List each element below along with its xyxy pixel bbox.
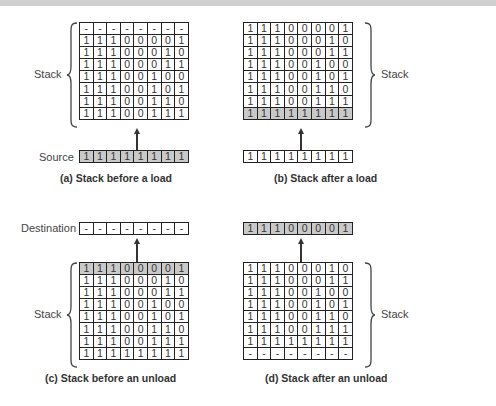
bit-cell: 1 xyxy=(244,107,258,119)
bit-cell: 1 xyxy=(244,71,258,83)
bit-cell: 1 xyxy=(257,275,271,287)
bit-cell: 1 xyxy=(271,83,285,95)
bit-cell: 1 xyxy=(257,287,271,299)
bit-cell: 0 xyxy=(120,299,134,311)
bit-cell: 1 xyxy=(257,47,271,59)
register-row: -------- xyxy=(80,223,189,235)
arrow-up-icon-c xyxy=(134,238,140,244)
stack-row: -------- xyxy=(80,23,189,35)
register-row: 11111111 xyxy=(80,151,189,163)
bit-cell: 1 xyxy=(298,335,312,347)
bit-cell: 1 xyxy=(107,323,121,335)
bit-cell: 1 xyxy=(80,275,94,287)
bit-cell: 1 xyxy=(325,263,339,275)
bit-cell: 1 xyxy=(271,323,285,335)
bit-cell: 1 xyxy=(175,335,189,347)
stack-row: 11100010 xyxy=(80,47,189,59)
bit-cell: 1 xyxy=(93,35,107,47)
bit-cell: 1 xyxy=(339,47,353,59)
bit-cell: 1 xyxy=(339,299,353,311)
bit-cell: 0 xyxy=(134,275,148,287)
stack-row: 11100011 xyxy=(244,47,353,59)
bit-cell: 0 xyxy=(175,275,189,287)
bit-cell: 0 xyxy=(120,335,134,347)
bit-cell: 0 xyxy=(120,47,134,59)
bit-cell: 1 xyxy=(80,335,94,347)
bit-cell: - xyxy=(93,223,107,235)
bit-cell: 1 xyxy=(175,107,189,119)
bit-cell: 1 xyxy=(339,23,353,35)
bit-cell: 0 xyxy=(298,263,312,275)
bit-cell: 0 xyxy=(284,223,298,235)
bit-cell: 0 xyxy=(339,311,353,323)
bit-cell: - xyxy=(311,347,325,359)
bit-cell: 0 xyxy=(311,223,325,235)
stack-row: 11100111 xyxy=(244,323,353,335)
bit-cell: 1 xyxy=(325,151,339,163)
bit-cell: - xyxy=(80,23,94,35)
bit-cell: - xyxy=(325,347,339,359)
bit-cell: 1 xyxy=(107,47,121,59)
bit-cell: 1 xyxy=(93,107,107,119)
bit-cell: 0 xyxy=(284,275,298,287)
bit-cell: 1 xyxy=(325,95,339,107)
bit-cell: 1 xyxy=(311,83,325,95)
bit-cell: 0 xyxy=(120,95,134,107)
bit-cell: - xyxy=(147,23,161,35)
bit-cell: 0 xyxy=(298,287,312,299)
bit-cell: 0 xyxy=(175,299,189,311)
bit-cell: 0 xyxy=(161,71,175,83)
bit-cell: 1 xyxy=(257,71,271,83)
bit-cell: 1 xyxy=(175,311,189,323)
right-brace-icon-b xyxy=(364,22,376,128)
bit-cell: 0 xyxy=(325,71,339,83)
bit-cell: 1 xyxy=(175,287,189,299)
bit-cell: 1 xyxy=(244,47,258,59)
bit-cell: 0 xyxy=(325,223,339,235)
bit-cell: 1 xyxy=(107,71,121,83)
bit-cell: 0 xyxy=(147,287,161,299)
bit-cell: 1 xyxy=(339,223,353,235)
bit-cell: - xyxy=(80,223,94,235)
bit-cell: 1 xyxy=(244,83,258,95)
bit-cell: 0 xyxy=(134,107,148,119)
bit-cell: 1 xyxy=(325,47,339,59)
bit-cell: 1 xyxy=(257,107,271,119)
stack-label-d: Stack xyxy=(381,308,409,320)
bit-cell: 1 xyxy=(93,95,107,107)
bit-cell: 1 xyxy=(271,95,285,107)
stack-label-c: Stack xyxy=(34,308,62,320)
bit-cell: 1 xyxy=(298,107,312,119)
stack-row: 11100110 xyxy=(244,311,353,323)
destination-label: Destination xyxy=(21,222,76,234)
bit-cell: 1 xyxy=(311,107,325,119)
arrow-up-icon-a xyxy=(134,128,140,134)
caption-b: (b) Stack after a load xyxy=(274,172,377,184)
bit-cell: 1 xyxy=(325,275,339,287)
stack-row: 11100101 xyxy=(244,299,353,311)
bit-cell: 1 xyxy=(93,311,107,323)
bit-cell: 1 xyxy=(80,287,94,299)
bit-cell: 1 xyxy=(80,323,94,335)
bit-cell: 1 xyxy=(284,335,298,347)
bit-cell: 0 xyxy=(134,47,148,59)
bit-cell: 1 xyxy=(325,323,339,335)
bit-cell: 1 xyxy=(107,35,121,47)
bit-cell: 1 xyxy=(107,263,121,275)
bit-cell: - xyxy=(120,23,134,35)
bit-cell: 0 xyxy=(298,275,312,287)
bit-cell: 1 xyxy=(161,323,175,335)
bit-cell: 1 xyxy=(311,323,325,335)
bit-cell: 1 xyxy=(257,323,271,335)
bit-cell: 1 xyxy=(80,263,94,275)
bit-cell: 1 xyxy=(244,23,258,35)
stack-row: 11111111 xyxy=(244,335,353,347)
bit-cell: 1 xyxy=(244,263,258,275)
bit-cell: 0 xyxy=(284,59,298,71)
bit-cell: 1 xyxy=(93,299,107,311)
bit-cell: - xyxy=(107,223,121,235)
bit-cell: 0 xyxy=(311,47,325,59)
bit-cell: 1 xyxy=(80,107,94,119)
bit-cell: 1 xyxy=(93,71,107,83)
bit-cell: 0 xyxy=(161,299,175,311)
